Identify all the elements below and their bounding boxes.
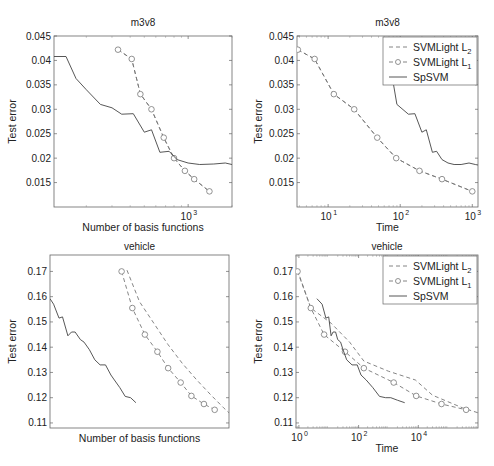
data-point-marker <box>207 189 213 195</box>
series-spsvm <box>50 299 136 403</box>
data-point-marker <box>295 47 301 53</box>
x-axis-label: Time <box>376 221 399 233</box>
y-axis-label: Test error <box>252 319 264 364</box>
chart-vehicle-time: vehicle0.170.160.150.140.130.120.1110010… <box>252 241 478 454</box>
y-tick-label: 0.04 <box>275 55 295 66</box>
data-point-marker <box>191 176 197 182</box>
series-spsvm <box>54 57 232 165</box>
y-tick-label: 0.045 <box>26 31 51 42</box>
data-point-marker <box>129 56 135 62</box>
x-tick-label: 10 <box>411 432 423 443</box>
chart-title: m3v8 <box>131 17 156 28</box>
data-point-marker <box>312 56 318 62</box>
data-point-marker <box>212 407 218 413</box>
x-tick-label: 10 <box>465 211 477 222</box>
chart-title: vehicle <box>124 241 156 252</box>
data-point-marker <box>295 269 301 275</box>
data-point-marker <box>308 305 314 311</box>
data-point-marker <box>189 393 195 399</box>
legend: SVMLight L2SVMLight L1SpSVM <box>383 37 477 85</box>
y-tick-label: 0.11 <box>28 417 47 428</box>
y-tick-label: 0.02 <box>275 153 295 164</box>
y-tick-label: 0.14 <box>274 342 294 353</box>
data-point-marker <box>142 332 148 338</box>
data-point-marker <box>351 106 357 112</box>
series-svmlight-l2 <box>127 270 229 413</box>
data-point-marker <box>393 155 399 161</box>
chart-vehicle-basis: vehicle0.170.160.150.140.130.120.11Numbe… <box>6 241 229 444</box>
y-tick-label: 0.17 <box>28 266 48 277</box>
x-tick-exponent: 3 <box>193 209 197 216</box>
series-spsvm <box>317 299 405 403</box>
chart-title: m3v8 <box>375 17 400 28</box>
y-axis-label: Test error <box>6 99 18 144</box>
x-tick-exponent: 2 <box>364 430 368 437</box>
legend-entry-label: SpSVM <box>413 290 449 302</box>
y-tick-label: 0.04 <box>32 55 52 66</box>
legend-entry-label: SpSVM <box>413 71 449 83</box>
y-tick-label: 0.03 <box>32 104 52 115</box>
data-point-marker <box>361 365 367 371</box>
y-tick-label: 0.015 <box>26 177 51 188</box>
x-axis-label: Time <box>376 442 399 454</box>
data-point-marker <box>374 135 380 141</box>
y-tick-label: 0.15 <box>28 316 48 327</box>
data-point-marker <box>201 401 207 407</box>
y-tick-label: 0.02 <box>32 153 52 164</box>
y-tick-label: 0.025 <box>26 128 51 139</box>
data-point-marker <box>165 365 171 371</box>
data-point-marker <box>417 168 423 174</box>
data-point-marker <box>178 380 184 386</box>
chart-m3v8-basis: m3v80.0450.040.0350.030.0250.020.015103N… <box>6 17 232 233</box>
data-point-marker <box>161 135 167 141</box>
series-svmlight-l2 <box>118 50 209 192</box>
y-tick-label: 0.11 <box>274 417 293 428</box>
x-tick-exponent: 3 <box>477 209 481 216</box>
figure: m3v80.0450.040.0350.030.0250.020.015103N… <box>0 0 494 466</box>
y-tick-label: 0.15 <box>274 316 294 327</box>
x-tick-label: 10 <box>291 432 303 443</box>
x-tick-exponent: 1 <box>333 209 337 216</box>
data-point-marker <box>331 91 337 97</box>
x-tick-label: 10 <box>351 432 363 443</box>
legend: SVMLight L2SVMLight L1SpSVM <box>383 256 477 304</box>
data-point-marker <box>463 407 469 413</box>
y-tick-label: 0.14 <box>28 342 48 353</box>
data-point-marker <box>138 91 144 97</box>
y-tick-label: 0.035 <box>269 79 294 90</box>
x-axis-label: Number of basis functions <box>82 221 203 233</box>
axes-frame <box>54 36 232 207</box>
y-tick-label: 0.13 <box>28 367 48 378</box>
series-svmlight-l1 <box>118 50 209 192</box>
y-tick-label: 0.13 <box>274 367 294 378</box>
y-axis-label: Test error <box>6 319 18 364</box>
data-point-marker <box>391 380 397 386</box>
x-axis-label: Number of basis functions <box>79 432 200 444</box>
x-tick-label: 10 <box>321 211 333 222</box>
y-tick-label: 0.03 <box>275 104 295 115</box>
x-tick-exponent: 2 <box>405 209 409 216</box>
chart-title: vehicle <box>371 241 403 252</box>
y-tick-label: 0.12 <box>28 392 48 403</box>
data-point-marker <box>149 106 155 112</box>
y-tick-label: 0.12 <box>274 392 294 403</box>
y-tick-label: 0.025 <box>269 128 294 139</box>
data-point-marker <box>119 269 125 275</box>
x-tick-exponent: 0 <box>304 430 308 437</box>
y-tick-label: 0.17 <box>274 266 294 277</box>
data-point-marker <box>321 332 327 338</box>
data-point-marker <box>439 401 445 407</box>
data-point-marker <box>469 189 475 195</box>
y-tick-label: 0.16 <box>28 291 48 302</box>
data-point-marker <box>413 393 419 399</box>
data-point-marker <box>439 176 445 182</box>
data-point-marker <box>130 305 136 311</box>
y-axis-label: Test error <box>252 99 264 144</box>
y-tick-label: 0.16 <box>274 291 294 302</box>
data-point-marker <box>182 168 188 174</box>
data-point-marker <box>115 47 121 53</box>
y-tick-label: 0.015 <box>269 177 294 188</box>
y-tick-label: 0.035 <box>26 79 51 90</box>
chart-m3v8-time: m3v80.0450.040.0350.030.0250.020.0151011… <box>252 17 481 233</box>
data-point-marker <box>155 349 161 355</box>
